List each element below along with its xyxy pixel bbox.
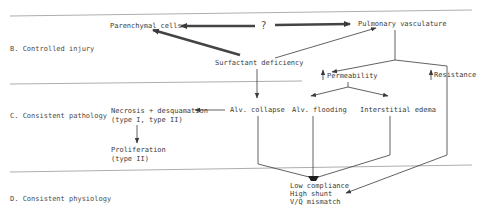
section-label-controlled-injury: B. Controlled injury [10,45,94,53]
arrow-surfactant-to-parenchymal [153,30,240,55]
outcome-high-shunt: High shunt [290,190,332,198]
node-interstitial-edema: Interstitial edema [360,106,436,114]
arrow-permeability-to-flooding [311,87,348,96]
arrow-question-to-vasculature [275,24,350,25]
divider-b-c [10,81,302,84]
node-parenchymal-cells: Parenchymal cells [110,22,182,30]
line-edema-to-outcome [315,116,390,178]
divider-c-d [10,165,472,172]
node-surfactant-deficiency: Surfactant deficiency [215,59,304,67]
line-collapse-to-outcome [258,116,313,178]
node-unknown-link: ? [261,20,266,31]
pathophysiology-diagram: B. Controlled injury C. Consistent patho… [0,0,481,223]
section-label-consistent-pathology: C. Consistent pathology [10,112,107,120]
node-resistance: Resistance [434,71,476,79]
node-alv-flooding: Alv. flooding [292,106,347,114]
arrow-permeability-to-edema [348,87,388,96]
node-permeability: Permeability [327,72,378,80]
node-alv-collapse: Alv. collapse [230,106,285,114]
arrow-surfactant-to-vasculature [275,28,376,58]
node-pulmonary-vasculature: Pulmonary vasculature [358,20,447,28]
node-proliferation: Proliferation [111,146,166,154]
node-necrosis-types: (type I, type II) [111,116,183,124]
outcome-vq-mismatch: V/Q mismatch [290,198,341,206]
divider-top [10,10,472,16]
node-necrosis-desquamation: Necrosis + desquamation [111,107,208,115]
arrow-vasculature-to-permeability [332,60,395,72]
convergence-node [308,176,319,181]
outcome-low-compliance: Low compliance [290,182,349,190]
section-label-consistent-physiology: D. Consistent physiology [10,195,111,203]
node-proliferation-type: (type II) [111,155,149,163]
line-vasculature-to-resistance [395,60,447,66]
arrow-resistance-to-vq [346,66,447,193]
